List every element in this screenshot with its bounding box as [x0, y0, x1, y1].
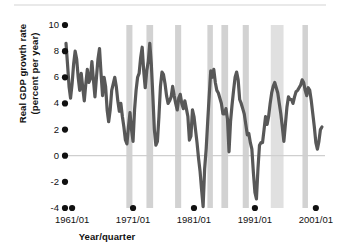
y-tick-dot	[62, 126, 68, 132]
y-tick-label: 4	[33, 98, 59, 108]
y-axis-title-line1: Real GDP growth rate	[17, 0, 29, 154]
x-tick-label: 2001/01	[288, 215, 338, 225]
recession-band	[175, 25, 181, 208]
y-tick-dot	[62, 22, 68, 28]
y-tick-label: 10	[33, 20, 59, 30]
x-tick-label: 1981/01	[166, 215, 222, 225]
x-tick-dot	[191, 205, 197, 211]
x-axis-title: Year/quarter	[52, 231, 162, 242]
y-tick-label: 8	[33, 46, 59, 56]
y-tick-label: -4	[33, 203, 59, 213]
x-tick-dot	[252, 205, 258, 211]
x-tick-dot	[69, 205, 75, 211]
y-tick-dot	[62, 74, 68, 80]
x-tick-label: 1991/01	[227, 215, 283, 225]
y-tick-dot	[62, 179, 68, 185]
x-tick-dot	[130, 205, 136, 211]
y-tick-label: 2	[33, 125, 59, 135]
y-tick-label: 6	[33, 72, 59, 82]
y-tick-dot	[62, 153, 68, 159]
recession-band	[302, 25, 307, 208]
y-tick-dot	[62, 100, 68, 106]
y-tick-label: 0	[33, 151, 59, 161]
y-axis-tick-dots	[62, 22, 68, 211]
x-tick-label: 1961/01	[44, 215, 100, 225]
x-tick-label: 1971/01	[105, 215, 161, 225]
y-tick-dot	[62, 48, 68, 54]
y-tick-dot	[62, 205, 68, 211]
y-tick-label: -2	[33, 177, 59, 187]
x-tick-dot	[313, 205, 319, 211]
